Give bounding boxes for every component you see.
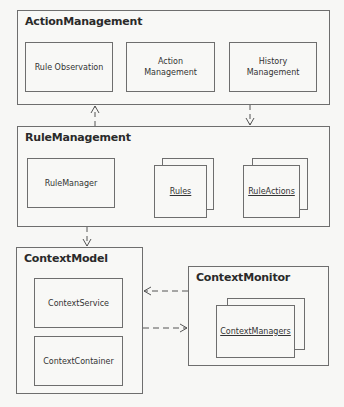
- package-title: ContextMonitor: [196, 271, 290, 284]
- component-label: Rule Observation: [35, 62, 104, 73]
- component-context-container: ContextContainer: [34, 336, 123, 386]
- component-label: ContextService: [48, 298, 109, 309]
- component-action-management: Action Management: [126, 42, 215, 92]
- package-title: ContextModel: [24, 252, 108, 265]
- arrow-right-icon: [143, 324, 187, 332]
- component-label: ContextManagers: [220, 326, 291, 337]
- component-rules: Rules: [154, 165, 207, 218]
- arrow-down-icon: [83, 227, 91, 246]
- component-context-service: ContextService: [34, 278, 123, 328]
- component-context-managers: ContextManagers: [216, 305, 295, 358]
- component-label: RuleManager: [45, 178, 97, 189]
- package-title: ActionManagement: [25, 15, 142, 28]
- component-label: RuleActions: [248, 186, 295, 197]
- component-label: Rules: [170, 186, 192, 197]
- component-history-management: History Management: [229, 42, 317, 92]
- package-title: RuleManagement: [25, 131, 131, 144]
- component-label: ContextContainer: [43, 356, 113, 367]
- arrow-down-icon: [246, 105, 254, 125]
- component-rule-actions: RuleActions: [243, 165, 300, 218]
- component-label: Action Management: [144, 56, 197, 78]
- component-rule-observation: Rule Observation: [25, 42, 113, 92]
- arrow-up-icon: [91, 106, 99, 126]
- component-rule-manager: RuleManager: [27, 158, 115, 208]
- arrow-left-icon: [144, 287, 188, 295]
- component-label: History Management: [247, 56, 300, 78]
